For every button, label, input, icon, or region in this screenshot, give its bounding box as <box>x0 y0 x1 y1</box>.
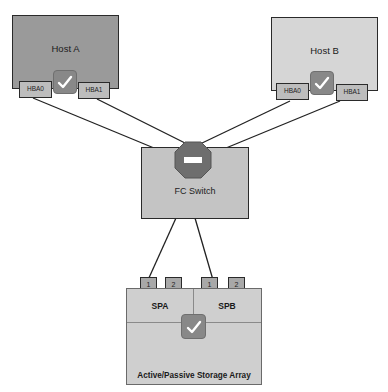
link-hosta-hba1 <box>97 99 187 144</box>
checkmark-icon <box>181 314 206 339</box>
spa-label: SPA <box>127 301 193 311</box>
host-a-label: Host A <box>13 43 118 54</box>
array-label: Active/Passive Storage Array <box>127 371 261 380</box>
host-b-hba0: HBA0 <box>276 83 309 100</box>
link-switch-spb1 <box>195 218 213 280</box>
fc-switch-label: FC Switch <box>142 186 248 196</box>
link-hosta-hba0 <box>33 98 154 148</box>
host-b-hba1: HBA1 <box>336 84 368 101</box>
link-hostb-hba0 <box>200 101 290 144</box>
host-b-label: Host B <box>272 45 377 56</box>
host-a-hba1: HBA1 <box>78 82 110 99</box>
host-a-hba0: HBA0 <box>19 81 52 98</box>
stop-sign-icon <box>174 141 212 179</box>
checkmark-icon <box>310 71 334 95</box>
link-switch-spa1 <box>148 218 176 280</box>
spb-label: SPB <box>194 301 260 311</box>
link-hostb-hba1 <box>226 101 340 148</box>
checkmark-icon <box>53 70 77 94</box>
